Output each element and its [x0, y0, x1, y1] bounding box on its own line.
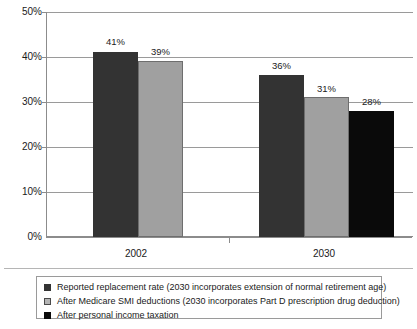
plot-area: 41% 39% 36% 31% 28%: [46, 12, 412, 237]
y-axis-label-50: 50%: [2, 7, 42, 17]
chart-legend: Reported replacement rate (2030 incorpor…: [36, 276, 382, 319]
legend-item-after-personal-income-taxation: After personal income taxation: [44, 309, 381, 321]
legend-label-after-medicare-smi: After Medicare SMI deductions (2030 inco…: [57, 296, 400, 307]
legend-swatch-icon-dark: [44, 284, 51, 291]
y-tick-50: [42, 12, 47, 13]
bar-2030-reported-replacement-rate: [259, 75, 304, 237]
y-axis-label-10: 10%: [2, 187, 42, 197]
y-tick-20: [42, 147, 47, 148]
gridline-50: [47, 12, 413, 13]
x-tick-mid: [229, 238, 230, 243]
bar-2002-after-medicare-smi: [138, 61, 183, 237]
bar-chart-figure: 50% 40% 30% 20% 10% 0% 41% 39% 36% 31% 2…: [0, 0, 417, 329]
x-axis-label-2030: 2030: [279, 248, 369, 259]
y-tick-10: [42, 192, 47, 193]
legend-item-reported-replacement-rate: Reported replacement rate (2030 incorpor…: [44, 281, 381, 293]
bar-value-label-2002-reported: 41%: [93, 37, 138, 47]
legend-swatch-icon-light: [44, 298, 51, 305]
legend-label-reported-replacement-rate: Reported replacement rate (2030 incorpor…: [57, 282, 386, 293]
bar-value-label-2030-smi: 31%: [304, 84, 349, 94]
bottom-divider: [4, 268, 413, 269]
bar-2030-after-medicare-smi: [304, 97, 349, 237]
y-axis-label-30: 30%: [2, 97, 42, 107]
y-axis-label-20: 20%: [2, 142, 42, 152]
y-tick-40: [42, 57, 47, 58]
bar-value-label-2030-taxation: 28%: [349, 97, 394, 107]
x-axis-label-2002: 2002: [91, 248, 181, 259]
y-axis-label-0: 0%: [2, 232, 42, 242]
y-tick-30: [42, 102, 47, 103]
bar-2030-after-personal-income-taxation: [349, 111, 394, 237]
bar-value-label-2002-smi: 39%: [138, 47, 183, 57]
bar-value-label-2030-reported: 36%: [259, 61, 304, 71]
bar-2002-reported-replacement-rate: [93, 52, 138, 237]
legend-swatch-icon-black: [44, 312, 51, 319]
legend-label-after-personal-income-taxation: After personal income taxation: [57, 310, 179, 321]
y-axis-label-40: 40%: [2, 52, 42, 62]
legend-item-after-medicare-smi: After Medicare SMI deductions (2030 inco…: [44, 295, 381, 307]
